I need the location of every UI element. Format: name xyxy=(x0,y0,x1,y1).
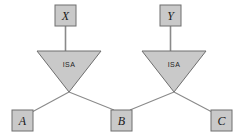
edge-isa-left-to-b xyxy=(69,92,114,110)
edge-isa-right-to-b xyxy=(130,92,174,110)
entity-node-a[interactable]: A xyxy=(12,110,33,131)
entity-label-a: A xyxy=(18,114,27,128)
entity-node-x[interactable]: X xyxy=(55,5,76,26)
entity-node-y[interactable]: Y xyxy=(160,5,181,26)
triangle-shape xyxy=(37,51,101,92)
isa-hierarchy-diagram: ISA ISA X Y A B C xyxy=(0,0,243,140)
entity-label-b: B xyxy=(118,114,126,128)
entity-label-c: C xyxy=(217,114,226,128)
edge-isa-right-to-c xyxy=(174,92,212,112)
entity-node-c[interactable]: C xyxy=(211,110,232,131)
triangle-shape xyxy=(142,51,206,92)
entity-label-x: X xyxy=(61,9,70,23)
edge-isa-left-to-a xyxy=(32,92,69,112)
isa-triangle-right[interactable]: ISA xyxy=(142,51,206,92)
isa-triangle-right-label: ISA xyxy=(168,61,180,68)
entity-node-b[interactable]: B xyxy=(111,110,132,131)
isa-triangle-left-label: ISA xyxy=(63,61,75,68)
isa-triangle-left[interactable]: ISA xyxy=(37,51,101,92)
